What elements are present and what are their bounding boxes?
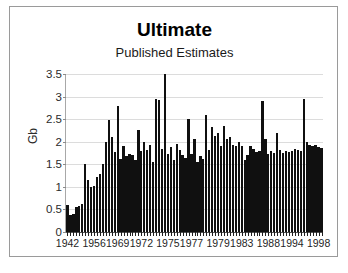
x-tick-mark: [209, 232, 210, 236]
x-tick-mark: [76, 232, 77, 236]
x-tick-mark: [174, 232, 175, 236]
x-tick-label: 1994: [280, 237, 303, 249]
x-tick-mark: [283, 232, 284, 236]
x-tick-mark: [310, 232, 311, 236]
x-tick-mark: [319, 232, 320, 236]
x-tick-label: 1969: [106, 237, 129, 249]
x-tick-mark: [313, 232, 314, 236]
x-tick-mark: [150, 232, 151, 236]
x-tick-mark: [171, 232, 172, 236]
x-tick-mark: [138, 232, 139, 236]
y-tick-label: 1.5: [46, 158, 62, 170]
x-tick-mark: [180, 232, 181, 236]
x-tick-mark: [79, 232, 80, 236]
x-tick-label: 1983: [230, 237, 253, 249]
x-tick-mark: [85, 232, 86, 236]
y-tick-label: 3: [56, 91, 62, 103]
x-tick-mark: [162, 232, 163, 236]
x-tick-label: 1998: [307, 237, 330, 249]
x-tick-mark: [147, 232, 148, 236]
x-tick-mark: [88, 232, 89, 236]
bar: [320, 148, 322, 232]
x-tick-mark: [106, 232, 107, 236]
x-tick-mark: [183, 232, 184, 236]
x-tick-mark: [221, 232, 222, 236]
x-tick-mark: [103, 232, 104, 236]
y-tick-label: 2.5: [46, 113, 62, 125]
y-tick-label: 1: [56, 181, 62, 193]
x-tick-mark: [224, 232, 225, 236]
x-tick-mark: [177, 232, 178, 236]
x-tick-mark: [301, 232, 302, 236]
x-tick-label: 1977: [180, 237, 203, 249]
x-tick-mark: [159, 232, 160, 236]
x-tick-mark: [206, 232, 207, 236]
x-tick-mark: [144, 232, 145, 236]
x-tick-mark: [295, 232, 296, 236]
x-tick-mark: [239, 232, 240, 236]
x-tick-mark: [168, 232, 169, 236]
chart-screenshot: Ultimate Published Estimates Gb 00.511.5…: [0, 0, 348, 273]
x-tick-mark: [73, 232, 74, 236]
x-tick-mark: [298, 232, 299, 236]
x-tick-mark: [200, 232, 201, 236]
x-tick-mark: [70, 232, 71, 236]
x-tick-mark: [271, 232, 272, 236]
x-tick-mark: [189, 232, 190, 236]
x-tick-mark: [277, 232, 278, 236]
x-tick-mark: [195, 232, 196, 236]
x-tick-mark: [322, 232, 323, 236]
chart-subtitle: Published Estimates: [10, 45, 339, 60]
x-tick-mark: [153, 232, 154, 236]
x-tick-label: 1979: [206, 237, 229, 249]
x-tick-mark: [215, 232, 216, 236]
x-tick-mark: [292, 232, 293, 236]
x-tick-mark: [109, 232, 110, 236]
x-tick-mark: [254, 232, 255, 236]
x-tick-mark: [286, 232, 287, 236]
x-tick-mark: [165, 232, 166, 236]
x-axis-ticks: [66, 232, 323, 236]
x-tick-mark: [289, 232, 290, 236]
x-tick-mark: [280, 232, 281, 236]
x-tick-mark: [268, 232, 269, 236]
y-tick-label: 3.5: [46, 68, 62, 80]
x-tick-mark: [218, 232, 219, 236]
x-tick-mark: [186, 232, 187, 236]
chart-title: Ultimate: [10, 19, 339, 41]
x-tick-mark: [112, 232, 113, 236]
x-tick-mark: [203, 232, 204, 236]
x-tick-mark: [115, 232, 116, 236]
y-tick-label: 2: [56, 136, 62, 148]
x-tick-mark: [265, 232, 266, 236]
x-tick-mark: [130, 232, 131, 236]
x-tick-mark: [230, 232, 231, 236]
x-tick-mark: [304, 232, 305, 236]
chart-frame: Ultimate Published Estimates Gb 00.511.5…: [9, 6, 338, 257]
x-tick-mark: [242, 232, 243, 236]
x-tick-mark: [127, 232, 128, 236]
x-tick-mark: [118, 232, 119, 236]
x-tick-label: 1975: [156, 237, 179, 249]
x-tick-mark: [227, 232, 228, 236]
x-tick-mark: [124, 232, 125, 236]
x-tick-mark: [82, 232, 83, 236]
x-tick-mark: [316, 232, 317, 236]
x-tick-mark: [212, 232, 213, 236]
x-tick-mark: [192, 232, 193, 236]
x-tick-mark: [197, 232, 198, 236]
x-tick-label: 1972: [130, 237, 153, 249]
x-tick-mark: [248, 232, 249, 236]
x-tick-mark: [132, 232, 133, 236]
x-tick-mark: [67, 232, 68, 236]
x-tick-label: 1956: [82, 237, 105, 249]
y-tick-label: 0.5: [46, 203, 62, 215]
x-tick-mark: [257, 232, 258, 236]
x-tick-mark: [307, 232, 308, 236]
x-tick-mark: [91, 232, 92, 236]
x-tick-mark: [262, 232, 263, 236]
bar-series: [66, 74, 323, 232]
x-tick-mark: [259, 232, 260, 236]
x-axis-labels: 1942195619691972197519771979198319881994…: [66, 237, 323, 251]
x-tick-mark: [233, 232, 234, 236]
